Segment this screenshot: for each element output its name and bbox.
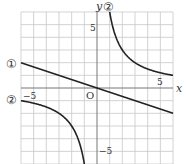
origin-label: O: [86, 90, 94, 101]
x-axis-label: x: [176, 82, 183, 95]
y-axis-label: y: [95, 0, 103, 13]
curve-2-label-top: ②: [103, 0, 114, 14]
y-tick-neg5: −5: [99, 146, 113, 156]
x-tick-neg5: −5: [23, 91, 37, 101]
coordinate-plane: x y O 5 −5 5 −5 ① ② ②: [0, 0, 186, 164]
y-tick-5: 5: [90, 23, 96, 33]
hyperbola-2-right: [110, 12, 173, 75]
hyperbola-2-left: [21, 101, 84, 164]
curve-1-label: ①: [6, 57, 17, 71]
x-tick-5: 5: [157, 77, 163, 87]
curve-2-label-left: ②: [6, 93, 17, 107]
